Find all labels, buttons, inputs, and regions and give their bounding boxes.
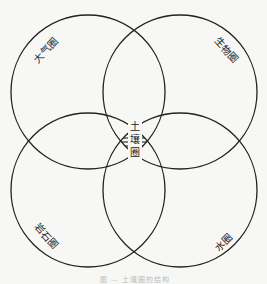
- label-pedosphere: 土 壤 圈: [128, 119, 142, 160]
- center-intersection-hatch: [103, 113, 257, 267]
- label-pedosphere-char: 土: [129, 120, 141, 133]
- label-pedosphere-char: 圈: [129, 146, 141, 159]
- label-pedosphere-char: 壤: [129, 133, 141, 146]
- figure-caption: 图 — 土壤圈的结构: [60, 274, 210, 284]
